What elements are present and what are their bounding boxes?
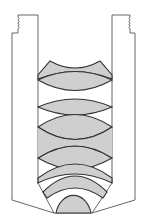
housing-right-outer: [92, 15, 135, 213]
housing-left-outer: [12, 15, 54, 213]
housing-left-inner: [38, 15, 54, 213]
lens-element-3: [38, 99, 112, 115]
lens-stack: [38, 61, 112, 213]
front-lens: [56, 195, 91, 213]
objective-lens-diagram: Microscope objective lens cross-section: [0, 0, 146, 221]
lens-element-7: [43, 176, 107, 198]
